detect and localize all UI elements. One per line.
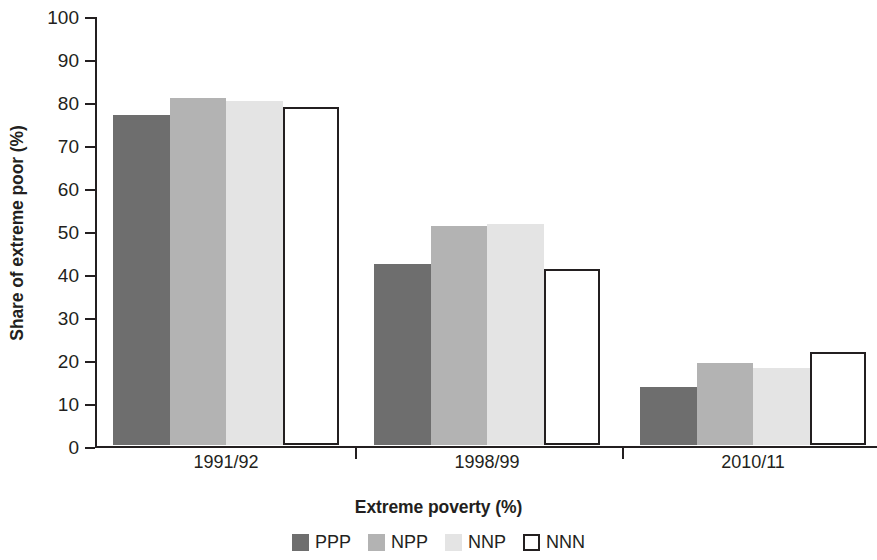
- y-axis-tick: 0: [85, 447, 95, 449]
- x-axis-tick-label: 1991/92: [193, 452, 258, 473]
- legend-label: PPP: [315, 533, 351, 551]
- bar-nnp-1: [487, 224, 544, 445]
- bar-nnp-2: [753, 368, 810, 445]
- bar-ppp-1: [374, 264, 431, 445]
- legend-swatch-icon: [368, 534, 385, 551]
- y-axis-tick: 50: [85, 232, 95, 234]
- y-axis-tick-label: 40: [58, 265, 79, 287]
- legend-item-nnp[interactable]: NNP: [445, 533, 506, 551]
- y-axis-tick: 30: [85, 318, 95, 320]
- y-axis-tick: 20: [85, 361, 95, 363]
- y-axis-tick-label: 80: [58, 93, 79, 115]
- bar-nnn-0: [283, 107, 340, 445]
- legend-swatch-icon: [292, 534, 309, 551]
- legend-item-npp[interactable]: NPP: [368, 533, 428, 551]
- bar-npp-0: [170, 98, 227, 445]
- x-axis-tick-label: 1998/99: [454, 452, 519, 473]
- y-axis-tick-label: 20: [58, 351, 79, 373]
- legend-label: NPP: [391, 533, 428, 551]
- x-axis-title: Extreme poverty (%): [0, 497, 877, 518]
- chart-legend: PPPNPPNNPNNN: [0, 533, 877, 551]
- bar-nnn-1: [544, 269, 601, 445]
- bar-nnn-2: [810, 352, 867, 445]
- y-axis-tick-label: 50: [58, 222, 79, 244]
- legend-swatch-icon: [523, 534, 540, 551]
- x-axis-line: [95, 446, 877, 448]
- y-axis-tick-label: 90: [58, 50, 79, 72]
- legend-label: NNP: [468, 533, 506, 551]
- legend-swatch-icon: [445, 534, 462, 551]
- y-axis-tick: 70: [85, 146, 95, 148]
- legend-item-ppp[interactable]: PPP: [292, 533, 351, 551]
- legend-label: NNN: [546, 533, 585, 551]
- bar-nnp-0: [226, 101, 283, 445]
- y-axis-tick-label: 30: [58, 308, 79, 330]
- bar-npp-1: [431, 226, 488, 445]
- y-axis-tick-label: 10: [58, 394, 79, 416]
- y-axis-tick: 40: [85, 275, 95, 277]
- y-axis-tick-label: 100: [47, 7, 79, 29]
- y-axis-tick: 60: [85, 189, 95, 191]
- x-axis-tick: [622, 448, 624, 459]
- y-axis-tick: 80: [85, 103, 95, 105]
- y-axis-tick-label: 60: [58, 179, 79, 201]
- bar-ppp-2: [640, 387, 697, 445]
- y-axis-tick: 100: [85, 17, 95, 19]
- y-axis-tick: 90: [85, 60, 95, 62]
- y-axis-tick-label: 0: [68, 437, 79, 459]
- bar-npp-2: [697, 363, 754, 445]
- plot-area: 0102030405060708090100: [95, 17, 877, 447]
- x-axis-tick: [355, 448, 357, 459]
- y-axis-tick-label: 70: [58, 136, 79, 158]
- legend-item-nnn[interactable]: NNN: [523, 533, 585, 551]
- y-axis-line: [95, 17, 97, 448]
- bar-chart: Share of extreme poor (%) 01020304050607…: [0, 0, 877, 560]
- y-axis-tick: 10: [85, 404, 95, 406]
- x-axis-tick-label: 2010/11: [721, 452, 785, 473]
- y-axis-title: Share of extreme poor (%): [4, 8, 30, 458]
- bar-ppp-0: [113, 115, 170, 445]
